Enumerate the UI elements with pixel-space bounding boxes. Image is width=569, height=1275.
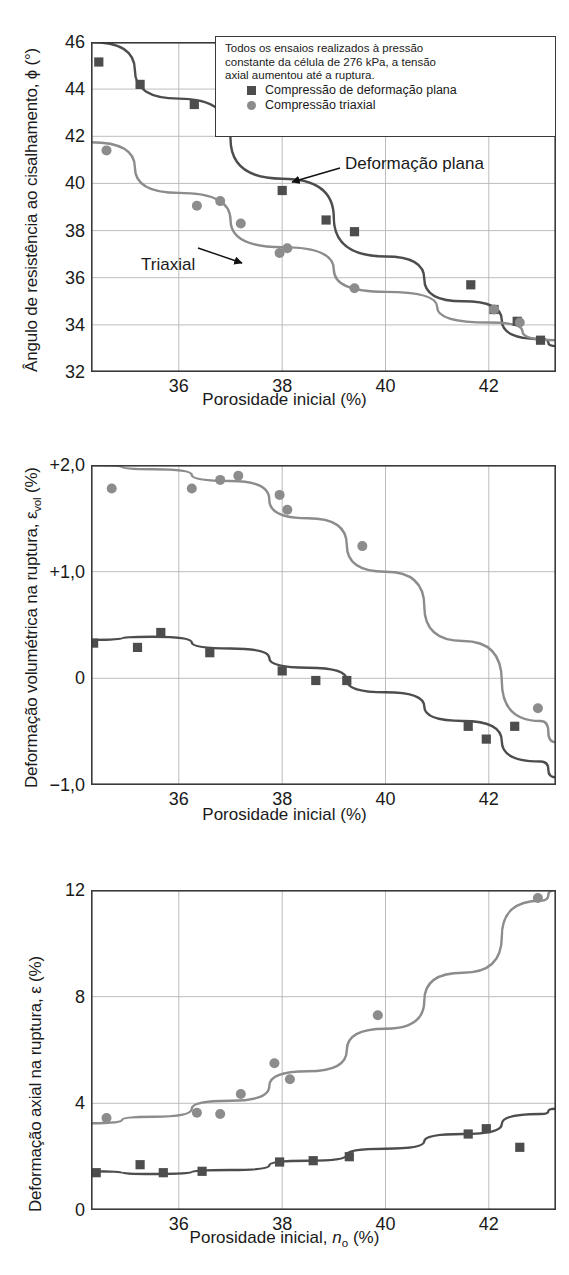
chart-3-y-tick: 12 [65, 880, 85, 901]
data-point-circle [489, 305, 499, 315]
data-point-circle [187, 484, 197, 494]
data-point-square [92, 1168, 101, 1177]
data-point-square [94, 57, 103, 66]
chart-1-y-tick: 44 [65, 79, 85, 100]
data-point-square [278, 666, 287, 675]
chart-1-x-tick: 38 [272, 376, 292, 397]
data-point-square [464, 722, 473, 731]
annotation-plane-strain: Deformação plana [345, 154, 484, 174]
data-point-circle [275, 490, 285, 500]
chart-3-y-tick: 8 [75, 986, 85, 1007]
data-point-circle [192, 201, 202, 211]
data-point-circle [282, 505, 292, 515]
data-point-circle [357, 541, 367, 551]
chart-3-x-tick: 42 [479, 1214, 499, 1235]
chart-2-y-tick: 0 [75, 668, 85, 689]
data-point-square [350, 227, 359, 236]
data-point-square [198, 1167, 207, 1176]
data-point-square [136, 1160, 145, 1169]
chart-2-x-tick: 36 [169, 789, 189, 810]
data-point-circle [236, 219, 246, 229]
legend-box: Todos os ensaios realizados à pressão co… [215, 36, 556, 137]
data-point-square [322, 215, 331, 224]
chart-1-y-tick: 34 [65, 314, 85, 335]
data-point-square [311, 676, 320, 685]
data-point-square [275, 1157, 284, 1166]
data-point-square [278, 186, 287, 195]
data-point-circle [215, 1109, 225, 1119]
chart-2-x-tick: 38 [272, 789, 292, 810]
data-point-square [309, 1156, 318, 1165]
data-point-square [482, 735, 491, 744]
data-point-square [156, 628, 165, 637]
data-point-square [466, 280, 475, 289]
data-point-circle [233, 471, 243, 481]
chart-1-x-tick: 42 [479, 376, 499, 397]
chart-2-y-tick: +2,0 [49, 455, 85, 476]
chart-2-plot-area [91, 465, 556, 785]
chart-1-y-tick: 40 [65, 173, 85, 194]
chart-2-y-tick: −1,0 [49, 775, 85, 796]
annotation-triaxial: Triaxial [141, 255, 195, 275]
chart-2-y-axis-label: Deformação volumétrica na ruptura, εvol … [22, 467, 43, 788]
circle-marker-icon [247, 101, 256, 110]
chart-3-y-axis-label: Deformação axial na ruptura, ε (%) [26, 956, 46, 1212]
data-point-square [205, 648, 214, 657]
chart-3-x-tick: 38 [272, 1214, 292, 1235]
chart-3-x-tick: 36 [169, 1214, 189, 1235]
data-point-circle [192, 1108, 202, 1118]
data-point-circle [107, 484, 117, 494]
chart-panel-volumetric-strain: Deformação volumétrica na ruptura, εvol … [0, 430, 569, 850]
data-point-circle [533, 703, 543, 713]
data-point-square [133, 643, 142, 652]
square-marker-icon [247, 86, 256, 95]
data-point-square [536, 336, 545, 345]
chart-3-svg [91, 890, 556, 1210]
chart-panel-shear-angle: Ângulo de resistência ao cisalhamento, ϕ… [0, 0, 569, 430]
chart-1-y-tick: 36 [65, 267, 85, 288]
chart-3-plot-area [91, 890, 556, 1210]
chart-1-x-tick: 36 [169, 376, 189, 397]
legend-note-line-1: Todos os ensaios realizados à pressão [225, 42, 548, 56]
legend-note-line-3: axial aumentou até a ruptura. [225, 69, 548, 83]
chart-panel-axial-strain: Deformação axial na ruptura, ε (%) Poros… [0, 850, 569, 1275]
data-point-circle [269, 1058, 279, 1068]
chart-1-x-tick: 40 [375, 376, 395, 397]
data-point-square [190, 100, 199, 109]
data-point-circle [533, 893, 543, 903]
chart-1-y-axis-label: Ângulo de resistência ao cisalhamento, ϕ… [22, 48, 42, 372]
legend-note-line-2: constante da célula de 276 kPa, a tensão [225, 56, 548, 70]
data-point-circle [515, 318, 525, 328]
data-point-square [510, 722, 519, 731]
data-point-square [345, 1152, 354, 1161]
data-point-circle [215, 475, 225, 485]
legend-entry-plane-strain-label: Compressão de deformação plana [265, 83, 457, 98]
chart-1-y-tick: 46 [65, 32, 85, 53]
chart-2-x-tick: 42 [479, 789, 499, 810]
data-point-circle [215, 196, 225, 206]
chart-2-y-tick: +1,0 [49, 561, 85, 582]
data-point-circle [236, 1089, 246, 1099]
data-point-square [136, 80, 145, 89]
chart-2-x-tick: 40 [375, 789, 395, 810]
chart-1-y-tick: 38 [65, 220, 85, 241]
legend-note: Todos os ensaios realizados à pressão co… [225, 42, 548, 83]
legend-entry-triaxial: Compressão triaxial [247, 98, 548, 113]
data-point-circle [285, 1074, 295, 1084]
data-point-square [159, 1168, 168, 1177]
data-point-square [515, 1143, 524, 1152]
data-point-circle [350, 283, 360, 293]
legend-entry-plane-strain: Compressão de deformação plana [247, 83, 548, 98]
data-point-square [342, 676, 351, 685]
chart-3-y-tick: 4 [75, 1093, 85, 1114]
data-point-circle [282, 243, 292, 253]
chart-3-x-tick: 40 [375, 1214, 395, 1235]
chart-3-y-tick: 0 [75, 1200, 85, 1221]
data-point-circle [102, 145, 112, 155]
chart-1-y-tick: 42 [65, 126, 85, 147]
chart-1-y-tick: 32 [65, 362, 85, 383]
data-point-square [464, 1129, 473, 1138]
legend-entry-triaxial-label: Compressão triaxial [265, 98, 375, 113]
data-point-square [482, 1124, 491, 1133]
data-point-circle [102, 1113, 112, 1123]
